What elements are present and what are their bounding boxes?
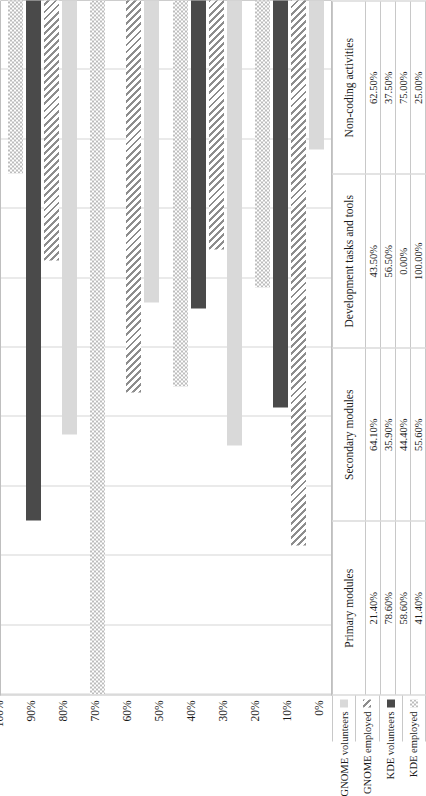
bar-fill [309, 0, 324, 149]
bar-group [1, 0, 84, 694]
tick-label: 90% [26, 695, 38, 741]
legend-label: GNOME employed [362, 711, 373, 794]
data-table: GNOME volunteersGNOME employedKDE volunt… [332, 0, 426, 741]
bar-group [166, 0, 249, 694]
table-cell: 78.60% [381, 522, 396, 695]
table-cell: 62.50% [366, 1, 381, 174]
bar [209, 0, 224, 694]
legend-swatch-icon [410, 699, 418, 707]
plot-area [0, 0, 332, 695]
legend-label: KDE employed [408, 711, 419, 777]
bar [90, 0, 105, 694]
bar [108, 0, 123, 694]
bar [8, 0, 23, 694]
bar-group [84, 0, 167, 694]
bar [255, 0, 270, 694]
legend-item: GNOME employed [355, 695, 378, 741]
tick-label: 20% [250, 695, 262, 741]
bar [173, 0, 188, 694]
tick-label: 80% [58, 695, 70, 741]
legend-item: KDE volunteers [379, 695, 402, 741]
bar [62, 0, 77, 694]
bar-fill [26, 0, 41, 521]
tick-label: 60% [122, 695, 134, 741]
table-cell: 75.00% [396, 1, 411, 174]
table-cell: 58.60% [396, 522, 411, 695]
table-cell: 44.40% [396, 348, 411, 521]
tick-label: 50% [154, 695, 166, 741]
bar [291, 0, 306, 694]
bar [144, 0, 159, 694]
table-cell: 56.50% [381, 175, 396, 348]
legend-swatch-icon [387, 699, 395, 707]
bar-fill [44, 0, 59, 260]
bar [191, 0, 206, 694]
table-cell: 21.40% [366, 522, 381, 695]
bar [227, 0, 242, 694]
tick-label: 70% [90, 695, 102, 741]
table-column: Non-coding activities62.50%37.50%75.00%2… [332, 0, 426, 175]
legend-swatch-icon [363, 699, 371, 707]
tick-label: 0% [314, 695, 326, 741]
table-column: Primary modules21.40%78.60%58.60%41.40% [332, 522, 426, 696]
legend-swatch-icon [340, 699, 348, 707]
bar [126, 0, 141, 694]
bar-fill [90, 0, 105, 694]
table-cell: 25.00% [411, 1, 426, 174]
bar-fill [273, 0, 288, 407]
table-cell: 55.60% [411, 348, 426, 521]
legend-label: KDE volunteers [385, 711, 396, 779]
bar [309, 0, 324, 694]
bar-fill [173, 0, 188, 386]
bar-fill [144, 0, 159, 302]
bar [44, 0, 59, 694]
bar-fill [8, 0, 23, 174]
bar-fill [62, 0, 77, 434]
tick-label: 30% [218, 695, 230, 741]
bar-fill [291, 0, 306, 545]
plot-row: 100%90%80%70%60%50%40%30%20%10%0% [0, 0, 332, 741]
legend: GNOME volunteersGNOME employedKDE volunt… [332, 695, 426, 741]
bar [273, 0, 288, 694]
bar-fill [126, 0, 141, 392]
bar-group [249, 0, 332, 694]
table-cell: 35.90% [381, 348, 396, 521]
value-axis-tick-labels: 100%90%80%70%60%50%40%30%20%10%0% [0, 695, 332, 741]
tick-label: 100% [0, 695, 6, 741]
tick-label: 40% [186, 695, 198, 741]
table-column: Secondary modules64.10%35.90%44.40%55.60… [332, 348, 426, 522]
table-cell: 64.10% [366, 348, 381, 521]
column-header: Secondary modules [332, 348, 366, 521]
table-column: Development tasks and tools43.50%56.50%0… [332, 175, 426, 349]
table-cell: 37.50% [381, 1, 396, 174]
table-cell: 0.00% [396, 175, 411, 348]
table-cell: 41.40% [411, 522, 426, 695]
column-header: Primary modules [332, 522, 366, 695]
column-header: Non-coding activities [332, 1, 366, 174]
column-header: Development tasks and tools [332, 175, 366, 348]
bar-fill [255, 0, 270, 287]
legend-item: KDE employed [402, 695, 426, 741]
bar-fill [227, 0, 242, 445]
bar-fill [191, 0, 206, 308]
bar [26, 0, 41, 694]
legend-item: GNOME volunteers [332, 695, 355, 741]
tick-label: 10% [282, 695, 294, 741]
table-cell: 43.50% [366, 175, 381, 348]
bar-fill [209, 0, 224, 249]
bar-groups [1, 0, 331, 694]
table-cell: 100.00% [411, 175, 426, 348]
legend-label: GNOME volunteers [339, 711, 350, 796]
data-table-columns: Primary modules21.40%78.60%58.60%41.40%S… [332, 0, 426, 695]
